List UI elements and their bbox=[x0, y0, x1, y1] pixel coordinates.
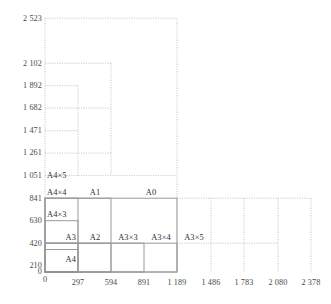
y-tick-630: 630 bbox=[2, 216, 42, 225]
y-tick-1471: 1 471 bbox=[2, 126, 42, 135]
label-a1: A1 bbox=[80, 188, 110, 197]
label-a4x3: A4×3 bbox=[47, 210, 81, 219]
x-tick-891: 891 bbox=[130, 278, 158, 287]
label-a0: A0 bbox=[128, 188, 174, 197]
box-a4x3 bbox=[45, 221, 78, 272]
y-tick-1682: 1 682 bbox=[2, 103, 42, 112]
label-a2: A2 bbox=[80, 233, 110, 242]
y-tick-420: 420 bbox=[2, 239, 42, 248]
x-tick-2080: 2 080 bbox=[262, 278, 294, 287]
label-a4: A4 bbox=[45, 255, 76, 264]
y-tick-1892: 1 892 bbox=[2, 81, 42, 90]
x-tick-594: 594 bbox=[97, 278, 125, 287]
x-tick-297: 297 bbox=[64, 278, 92, 287]
label-a3x3: A3×3 bbox=[112, 233, 144, 242]
y-tick-1261: 1 261 bbox=[2, 148, 42, 157]
label-a3x4: A3×4 bbox=[145, 233, 177, 242]
y-tick-841: 841 bbox=[2, 194, 42, 203]
label-a4x5: A4×5 bbox=[47, 171, 81, 180]
x-tick-2378: 2 378 bbox=[295, 278, 327, 287]
x-tick-1486: 1 486 bbox=[195, 278, 227, 287]
label-a3x5: A3×5 bbox=[178, 233, 210, 242]
label-a3: A3 bbox=[45, 233, 76, 242]
x-tick-1189: 1 189 bbox=[161, 278, 193, 287]
x-tick-1783: 1 783 bbox=[228, 278, 260, 287]
label-a4x4: A4×4 bbox=[47, 188, 81, 197]
y-tick-2102: 2 102 bbox=[2, 59, 42, 68]
y-tick-2523: 2 523 bbox=[2, 14, 42, 23]
y-tick-1051: 1 051 bbox=[2, 171, 42, 180]
x-tick-0: 0 bbox=[35, 275, 55, 284]
